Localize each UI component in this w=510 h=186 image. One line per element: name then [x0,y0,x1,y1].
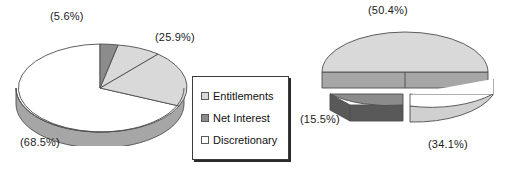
left-pie-chart [10,26,190,146]
legend-label-net-interest: Net Interest [213,112,270,124]
legend-swatch-net-interest-icon [201,114,209,122]
left-label-discretionary: (68.5%) [20,136,60,148]
legend-swatch-discretionary-icon [201,136,209,144]
legend-item-entitlements: Entitlements [201,86,288,106]
left-label-net-interest: (5.6%) [50,10,84,22]
legend-item-net-interest: Net Interest [201,108,288,128]
legend-label-discretionary: Discretionary [213,134,277,146]
right-label-net-interest: (15.5%) [300,113,340,125]
right-pie-chart [310,20,500,155]
chart-canvas: (5.6%) (25.9%) (68.5%) Entitlements Net … [0,0,510,186]
legend-item-discretionary: Discretionary [201,130,288,150]
legend-swatch-entitlements-icon [201,92,209,100]
right-label-discretionary: (34.1%) [428,138,468,150]
right-label-entitlements: (50.4%) [368,4,408,16]
legend-label-entitlements: Entitlements [213,90,274,102]
left-label-entitlements: (25.9%) [155,31,195,43]
right-slice-net-interest-group [330,94,403,121]
chart-legend: Entitlements Net Interest Discretionary [192,76,289,160]
right-slice-entitlements-group [322,32,488,88]
